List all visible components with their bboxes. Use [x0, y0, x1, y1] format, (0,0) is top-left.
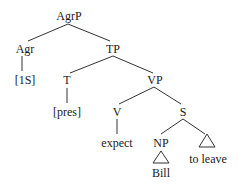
syntax-tree: AgrP Agr TP [1S] T VP [pres] V S expect …: [0, 0, 239, 188]
edge-agrp-agr: [28, 24, 68, 41]
node-subject-bill: Bill: [152, 167, 170, 179]
edge-agrp-tp: [68, 24, 110, 41]
edge-s-toleave: [183, 119, 205, 134]
edge-tp-vp: [113, 56, 153, 73]
node-tp: TP: [106, 43, 120, 55]
triangle-to-leave-icon: [199, 134, 215, 147]
edge-vp-s: [154, 87, 181, 104]
edge-tp-t: [70, 56, 113, 73]
node-agr-feature: [1S]: [15, 74, 36, 86]
node-t-feature: [pres]: [53, 106, 81, 118]
node-agrp: AgrP: [56, 10, 81, 22]
triangle-bill-icon: [153, 151, 169, 163]
node-verb-expect: expect: [101, 137, 132, 149]
node-t: T: [63, 74, 70, 86]
edge-vp-v: [119, 87, 154, 104]
node-vp: VP: [147, 74, 162, 86]
edge-s-np: [161, 119, 183, 134]
node-infinitive-to-leave: to leave: [189, 153, 227, 165]
node-v: V: [113, 106, 122, 118]
node-s: S: [180, 106, 187, 118]
node-agr: Agr: [16, 43, 35, 55]
node-np: NP: [153, 137, 168, 149]
